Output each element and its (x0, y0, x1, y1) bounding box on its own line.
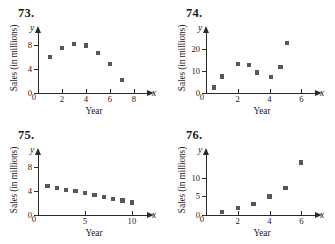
x-tick-label: 2 (54, 94, 70, 104)
y-tick-label: 8 (16, 162, 32, 172)
data-point (84, 43, 88, 47)
scatter-plot-75: Sales (in millions) y x 0480510 Year (0, 148, 167, 240)
x-tick-label: 0 (194, 92, 210, 102)
exercise-panel-74: 74. Sales (in millions) y x 010200246 Ye… (168, 0, 335, 122)
data-point (278, 65, 282, 69)
x-axis-title: Year (206, 228, 318, 238)
data-point (120, 78, 124, 82)
axes-area: y x 05100246 Year (198, 148, 326, 240)
y-axis-arrow-icon (35, 148, 41, 155)
data-point (299, 160, 303, 164)
data-point (269, 75, 273, 79)
x-tick-label: 4 (78, 94, 94, 104)
exercise-panel-73: 73. Sales (in millions) y x 04802468 Yea… (0, 0, 167, 122)
y-axis-arrow-icon (35, 26, 41, 33)
y-axis-line (38, 154, 39, 216)
y-tick-mark (34, 45, 39, 46)
x-tick-label: 4 (262, 94, 278, 104)
y-axis-arrow-icon (203, 148, 209, 155)
data-point (64, 188, 68, 192)
y-tick-label: 4 (16, 186, 32, 196)
scatter-plot-76: Sales (in millions) y x 05100246 Year (168, 148, 335, 240)
data-point (283, 186, 287, 190)
data-point (83, 191, 87, 195)
axes-area: y x 010200246 Year (198, 26, 326, 118)
x-tick-label: 0 (194, 214, 210, 224)
data-point (108, 62, 112, 66)
x-axis-title: Year (206, 106, 318, 116)
x-axis-variable: x (152, 88, 156, 98)
y-axis-line (206, 154, 207, 216)
y-tick-label: 5 (184, 191, 200, 201)
data-point (55, 186, 59, 190)
y-axis-line (38, 32, 39, 94)
y-axis-variable: y (198, 23, 202, 33)
scatter-plot-73: Sales (in millions) y x 04802468 Year (0, 26, 167, 118)
data-point (102, 195, 106, 199)
x-tick-label: 8 (126, 94, 142, 104)
data-point (111, 197, 115, 201)
y-tick-label: 8 (16, 40, 32, 50)
y-tick-mark (34, 69, 39, 70)
x-axis-title: Year (38, 228, 150, 238)
y-tick-label: 10 (184, 66, 200, 76)
data-point (45, 184, 49, 188)
x-tick-label: 5 (77, 216, 93, 226)
exercise-sheet: 73. Sales (in millions) y x 04802468 Yea… (0, 0, 335, 244)
y-axis-variable: y (198, 145, 202, 155)
scatter-plot-74: Sales (in millions) y x 010200246 Year (168, 26, 335, 118)
y-axis-arrow-icon (203, 26, 209, 33)
x-tick-label: 6 (293, 216, 309, 226)
y-tick-label: 4 (16, 64, 32, 74)
data-point (48, 55, 52, 59)
y-tick-mark (202, 71, 207, 72)
x-axis-variable: x (152, 210, 156, 220)
y-tick-mark (202, 49, 207, 50)
y-axis-variable: y (30, 23, 34, 33)
y-tick-label: 20 (184, 44, 200, 54)
data-point (247, 63, 251, 67)
y-tick-label: 10 (184, 173, 200, 183)
data-point (236, 206, 240, 210)
data-point (73, 189, 77, 193)
x-tick-label: 0 (26, 214, 42, 224)
y-axis-variable: y (30, 145, 34, 155)
data-point (251, 202, 255, 206)
data-point (255, 70, 259, 74)
axes-area: y x 04802468 Year (30, 26, 158, 118)
data-point (92, 193, 96, 197)
data-point (220, 210, 224, 214)
x-tick-label: 4 (262, 216, 278, 226)
y-tick-mark (202, 196, 207, 197)
exercise-panel-76: 76. Sales (in millions) y x 05100246 Yea… (168, 122, 335, 244)
data-point (120, 198, 124, 202)
x-tick-label: 2 (230, 94, 246, 104)
data-point (236, 62, 240, 66)
data-point (220, 74, 224, 78)
y-tick-mark (34, 191, 39, 192)
x-tick-label: 6 (293, 94, 309, 104)
data-point (60, 46, 64, 50)
x-axis-variable: x (320, 88, 324, 98)
y-tick-mark (34, 167, 39, 168)
data-point (130, 200, 134, 204)
x-axis-title: Year (38, 106, 150, 116)
axes-area: y x 0480510 Year (30, 148, 158, 240)
y-axis-line (206, 32, 207, 94)
y-tick-mark (202, 178, 207, 179)
x-tick-label: 2 (230, 216, 246, 226)
data-point (285, 41, 289, 45)
data-point (267, 194, 271, 198)
x-tick-label: 6 (102, 94, 118, 104)
exercise-panel-75: 75. Sales (in millions) y x 0480510 Year (0, 122, 167, 244)
x-tick-label: 10 (124, 216, 140, 226)
x-tick-label: 0 (26, 92, 42, 102)
data-point (212, 85, 216, 89)
data-point (96, 51, 100, 55)
x-axis-variable: x (320, 210, 324, 220)
data-point (72, 42, 76, 46)
